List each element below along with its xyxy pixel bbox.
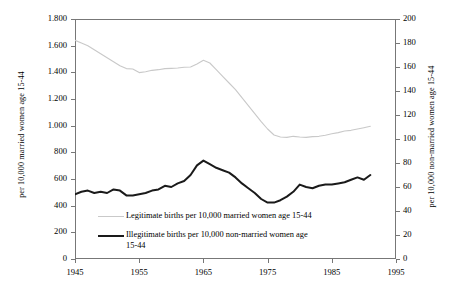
plot-lines: [75, 19, 396, 259]
tick-mark-bottom: [139, 259, 140, 263]
y-tick-label-left: 1.000: [27, 120, 67, 130]
tick-mark-right: [396, 139, 400, 140]
tick-mark-left: [71, 46, 75, 47]
tick-mark-right: [396, 235, 400, 236]
legend-label-illegitimate: Illegitimate births per 10,000 non-marri…: [126, 230, 308, 239]
series-legitimate-line: [75, 40, 370, 137]
y-tick-label-left: 400: [27, 200, 67, 210]
y-tick-label-right: 160: [403, 61, 443, 71]
y-tick-label-right: 40: [403, 205, 443, 215]
y-tick-label-right: 140: [403, 85, 443, 95]
left-axis-title: per 10,000 married women age 15-44: [17, 60, 26, 210]
legend-swatch-illegitimate: [98, 235, 124, 237]
tick-mark-right: [396, 115, 400, 116]
legend-swatch-legitimate: [98, 216, 124, 217]
tick-mark-right: [396, 91, 400, 92]
y-tick-label-left: 800: [27, 146, 67, 156]
y-tick-label-left: 1.600: [27, 40, 67, 50]
tick-mark-bottom: [396, 259, 397, 263]
y-tick-label-left: 0: [27, 253, 67, 263]
y-tick-label-left: 200: [27, 226, 67, 236]
tick-mark-right: [396, 19, 400, 20]
y-tick-label-right: 0: [403, 253, 443, 263]
tick-mark-right: [396, 43, 400, 44]
tick-mark-left: [71, 179, 75, 180]
tick-mark-right: [396, 211, 400, 212]
y-tick-label-left: 1.400: [27, 66, 67, 76]
y-tick-label-right: 20: [403, 229, 443, 239]
y-tick-label-right: 200: [403, 13, 443, 23]
tick-mark-left: [71, 19, 75, 20]
tick-mark-left: [71, 152, 75, 153]
y-tick-label-right: 100: [403, 133, 443, 143]
series-illegitimate-line: [75, 161, 370, 203]
tick-mark-bottom: [332, 259, 333, 263]
tick-mark-right: [396, 187, 400, 188]
y-tick-label-left: 600: [27, 173, 67, 183]
x-tick-label: 1985: [312, 267, 352, 277]
chart-container: per 10,000 married women age 15-44 per 1…: [0, 0, 454, 301]
tick-mark-right: [396, 67, 400, 68]
y-tick-label-right: 60: [403, 181, 443, 191]
x-tick-label: 1965: [183, 267, 223, 277]
tick-mark-left: [71, 72, 75, 73]
y-tick-label-right: 120: [403, 109, 443, 119]
y-tick-label-left: 1.200: [27, 93, 67, 103]
y-tick-label-right: 180: [403, 37, 443, 47]
tick-mark-bottom: [268, 259, 269, 263]
x-tick-label: 1955: [119, 267, 159, 277]
tick-mark-left: [71, 206, 75, 207]
x-tick-label: 1975: [248, 267, 288, 277]
legend-label-legitimate: Legitimate births per 10,000 married wom…: [126, 211, 312, 220]
y-tick-label-right: 80: [403, 157, 443, 167]
tick-mark-bottom: [75, 259, 76, 263]
tick-mark-left: [71, 126, 75, 127]
tick-mark-left: [71, 232, 75, 233]
x-tick-label: 1945: [55, 267, 95, 277]
x-tick-label: 1995: [376, 267, 416, 277]
y-tick-label-left: 1.800: [27, 13, 67, 23]
tick-mark-left: [71, 99, 75, 100]
tick-mark-bottom: [203, 259, 204, 263]
legend-label-illegitimate-line2: 15-44: [126, 241, 146, 250]
tick-mark-right: [396, 163, 400, 164]
